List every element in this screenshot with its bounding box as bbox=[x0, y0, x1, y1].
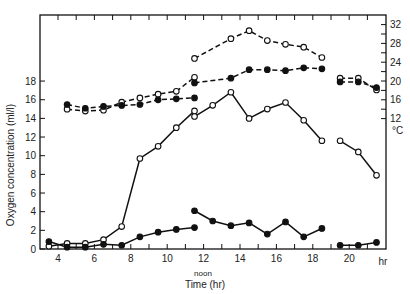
series-line bbox=[340, 141, 376, 176]
y-axis-left: 024681012141618 bbox=[25, 76, 45, 255]
filled-circle-marker bbox=[119, 103, 125, 109]
filled-circle-marker bbox=[192, 95, 198, 101]
open-circle-marker bbox=[228, 36, 234, 42]
y-axis-right: 121620242832 bbox=[381, 19, 402, 124]
x-tick-label: 6 bbox=[92, 253, 98, 264]
temperature-open-dashed bbox=[64, 28, 379, 114]
filled-circle-marker bbox=[356, 242, 362, 248]
open-circle-marker bbox=[174, 125, 180, 131]
series-line bbox=[195, 92, 322, 141]
open-circle-marker bbox=[374, 172, 380, 178]
x-tick-label: 10 bbox=[162, 253, 174, 264]
temperature-filled-dashed bbox=[64, 65, 379, 111]
filled-circle-marker bbox=[246, 220, 252, 226]
filled-circle-marker bbox=[319, 66, 325, 72]
y2-tick-label: 28 bbox=[390, 38, 402, 49]
hr-unit-label: hr bbox=[379, 256, 389, 267]
open-circle-marker bbox=[210, 103, 216, 109]
x-tick-label: 16 bbox=[271, 253, 283, 264]
y-tick-label: 8 bbox=[30, 169, 36, 180]
open-circle-marker bbox=[228, 89, 234, 95]
filled-circle-marker bbox=[137, 102, 143, 108]
filled-circle-marker bbox=[301, 234, 307, 240]
y-tick-label: 4 bbox=[30, 206, 36, 217]
filled-circle-marker bbox=[192, 225, 198, 231]
filled-circle-marker bbox=[101, 104, 107, 110]
y2-tick-label: 24 bbox=[390, 57, 402, 68]
filled-circle-marker bbox=[228, 223, 234, 229]
x-tick-label: 4 bbox=[55, 253, 61, 264]
open-circle-marker bbox=[192, 108, 198, 114]
open-circle-marker bbox=[174, 89, 180, 95]
filled-circle-marker bbox=[83, 105, 89, 111]
filled-circle-marker bbox=[174, 227, 180, 233]
y-tick-label: 2 bbox=[30, 225, 36, 236]
open-circle-marker bbox=[192, 74, 198, 80]
y-tick-label: 0 bbox=[30, 244, 36, 255]
filled-circle-marker bbox=[301, 65, 307, 71]
open-circle-marker bbox=[155, 91, 161, 97]
y-axis-title: Oxygen concentration (ml/l) bbox=[5, 104, 16, 226]
open-circle-marker bbox=[265, 38, 271, 44]
filled-circle-marker bbox=[137, 234, 143, 240]
open-circle-marker bbox=[301, 117, 307, 123]
filled-circle-marker bbox=[265, 231, 271, 237]
filled-circle-marker bbox=[155, 229, 161, 235]
y-tick-label: 14 bbox=[25, 113, 37, 124]
open-circle-marker bbox=[192, 56, 198, 62]
open-circle-marker bbox=[319, 138, 325, 144]
oxygen-filled-solid bbox=[46, 208, 379, 250]
x-tick-label: 14 bbox=[234, 253, 246, 264]
filled-circle-marker bbox=[210, 218, 216, 224]
plot-frame bbox=[40, 15, 386, 249]
y2-tick-label: 16 bbox=[390, 94, 402, 105]
y-tick-label: 6 bbox=[30, 188, 36, 199]
filled-circle-marker bbox=[192, 208, 198, 214]
filled-circle-marker bbox=[283, 219, 289, 225]
chart: 468101214161820 024681012141618 12162024… bbox=[0, 0, 410, 294]
x-tick-label: 8 bbox=[128, 253, 134, 264]
y2-tick-label: 32 bbox=[390, 19, 402, 30]
open-circle-marker bbox=[192, 114, 198, 120]
open-circle-marker bbox=[119, 224, 125, 230]
open-circle-marker bbox=[283, 42, 289, 48]
filled-circle-marker bbox=[337, 79, 343, 85]
x-tick-label: 18 bbox=[307, 253, 319, 264]
open-circle-marker bbox=[246, 28, 252, 34]
filled-circle-marker bbox=[283, 68, 289, 74]
filled-circle-marker bbox=[64, 102, 70, 108]
open-circle-marker bbox=[301, 44, 307, 50]
x-tick-label: 12 bbox=[198, 253, 210, 264]
y2-tick-label: 12 bbox=[390, 113, 402, 124]
filled-circle-marker bbox=[119, 242, 125, 248]
x-tick-label: 20 bbox=[344, 253, 356, 264]
noon-label: noon bbox=[194, 269, 212, 278]
celsius-unit-label: °C bbox=[392, 125, 403, 136]
data-series bbox=[46, 28, 379, 250]
y-tick-label: 16 bbox=[25, 94, 37, 105]
filled-circle-marker bbox=[374, 85, 380, 91]
filled-circle-marker bbox=[374, 240, 380, 246]
open-circle-marker bbox=[319, 55, 325, 61]
filled-circle-marker bbox=[174, 96, 180, 102]
open-circle-marker bbox=[155, 144, 161, 150]
filled-circle-marker bbox=[265, 67, 271, 73]
y-tick-label: 18 bbox=[25, 76, 37, 87]
y-tick-label: 10 bbox=[25, 150, 37, 161]
open-circle-marker bbox=[137, 156, 143, 162]
open-circle-marker bbox=[337, 138, 343, 144]
open-circle-marker bbox=[137, 95, 143, 101]
open-circle-marker bbox=[265, 106, 271, 112]
filled-circle-marker bbox=[192, 80, 198, 86]
filled-circle-marker bbox=[246, 67, 252, 73]
open-circle-marker bbox=[356, 149, 362, 155]
filled-circle-marker bbox=[46, 239, 52, 245]
filled-circle-marker bbox=[319, 226, 325, 232]
filled-circle-marker bbox=[155, 97, 161, 103]
filled-circle-marker bbox=[64, 244, 70, 250]
y2-tick-label: 20 bbox=[390, 76, 402, 87]
filled-circle-marker bbox=[83, 244, 89, 250]
oxygen-open-solid bbox=[46, 89, 379, 249]
filled-circle-marker bbox=[356, 79, 362, 85]
plot-border bbox=[40, 15, 386, 249]
